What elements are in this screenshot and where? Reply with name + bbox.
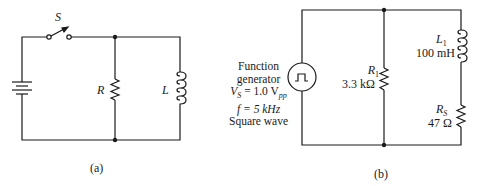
generator-freq: f = 5 kHz — [229, 103, 288, 116]
caption-a: (a) — [90, 162, 103, 175]
switch-label: S — [55, 11, 61, 24]
inductor-l1-icon — [458, 30, 467, 62]
resistor-r-label: R — [97, 84, 104, 97]
l1-value: 100 mH — [416, 47, 455, 60]
generator-spec: Function generator VS = 1.0 Vpp f = 5 kH… — [229, 60, 288, 128]
rs-value: 47 Ω — [428, 117, 452, 130]
resistor-r-icon — [111, 79, 119, 100]
switch-icon — [47, 27, 71, 39]
generator-line2: generator — [229, 73, 288, 86]
resistor-r1-icon — [380, 68, 388, 90]
generator-vs: VS = 1.0 Vpp — [229, 85, 288, 103]
battery-icon — [12, 82, 32, 96]
r1-value: 3.3 kΩ — [342, 78, 375, 91]
function-generator-icon — [288, 63, 316, 91]
inductor-l-icon — [177, 72, 186, 106]
inductor-l-label: L — [162, 84, 169, 97]
generator-waveform: Square wave — [229, 115, 288, 128]
caption-b: (b) — [374, 168, 388, 181]
resistor-rs-icon — [457, 105, 465, 127]
generator-line1: Function — [229, 60, 288, 73]
